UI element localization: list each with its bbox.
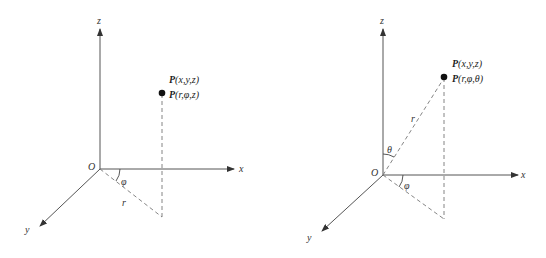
y-axis-label: y [24, 224, 30, 235]
projection-dashed-line [383, 175, 444, 219]
cylindrical-diagram: z x y O φ r P(x,y,z) P(r,φ,z) [24, 15, 244, 235]
radius-dashed-line [383, 78, 444, 175]
origin-label: O [371, 167, 378, 178]
r-label: r [411, 113, 415, 124]
x-axis-label: x [520, 169, 526, 180]
point-label-spherical: P(r,φ,θ) [452, 73, 484, 85]
r-label: r [122, 197, 126, 208]
point-label-cylindrical: P(r,φ,z) [169, 89, 200, 101]
phi-arc [399, 175, 403, 187]
phi-label: φ [121, 176, 127, 187]
spherical-diagram: z x y O θ φ r P(x,y,z) P(r,φ,θ) [306, 15, 526, 243]
point-p [159, 90, 166, 97]
y-axis [322, 175, 383, 231]
point-label-cartesian: P(x,y,z) [169, 74, 200, 86]
point-p [441, 74, 448, 81]
phi-label: φ [404, 180, 410, 191]
z-axis-label: z [379, 15, 384, 26]
x-axis-label: x [238, 163, 244, 174]
y-axis [40, 169, 100, 226]
phi-arc [116, 169, 120, 181]
y-axis-label: y [306, 232, 312, 243]
origin-label: O [88, 161, 95, 172]
radius-dashed-line [100, 169, 162, 217]
point-label-cartesian: P(x,y,z) [452, 58, 483, 70]
coordinate-diagrams: z x y O φ r P(x,y,z) P(r,φ,z) z x y O θ … [0, 0, 546, 258]
z-axis-label: z [96, 15, 101, 26]
theta-label: θ [387, 144, 392, 155]
